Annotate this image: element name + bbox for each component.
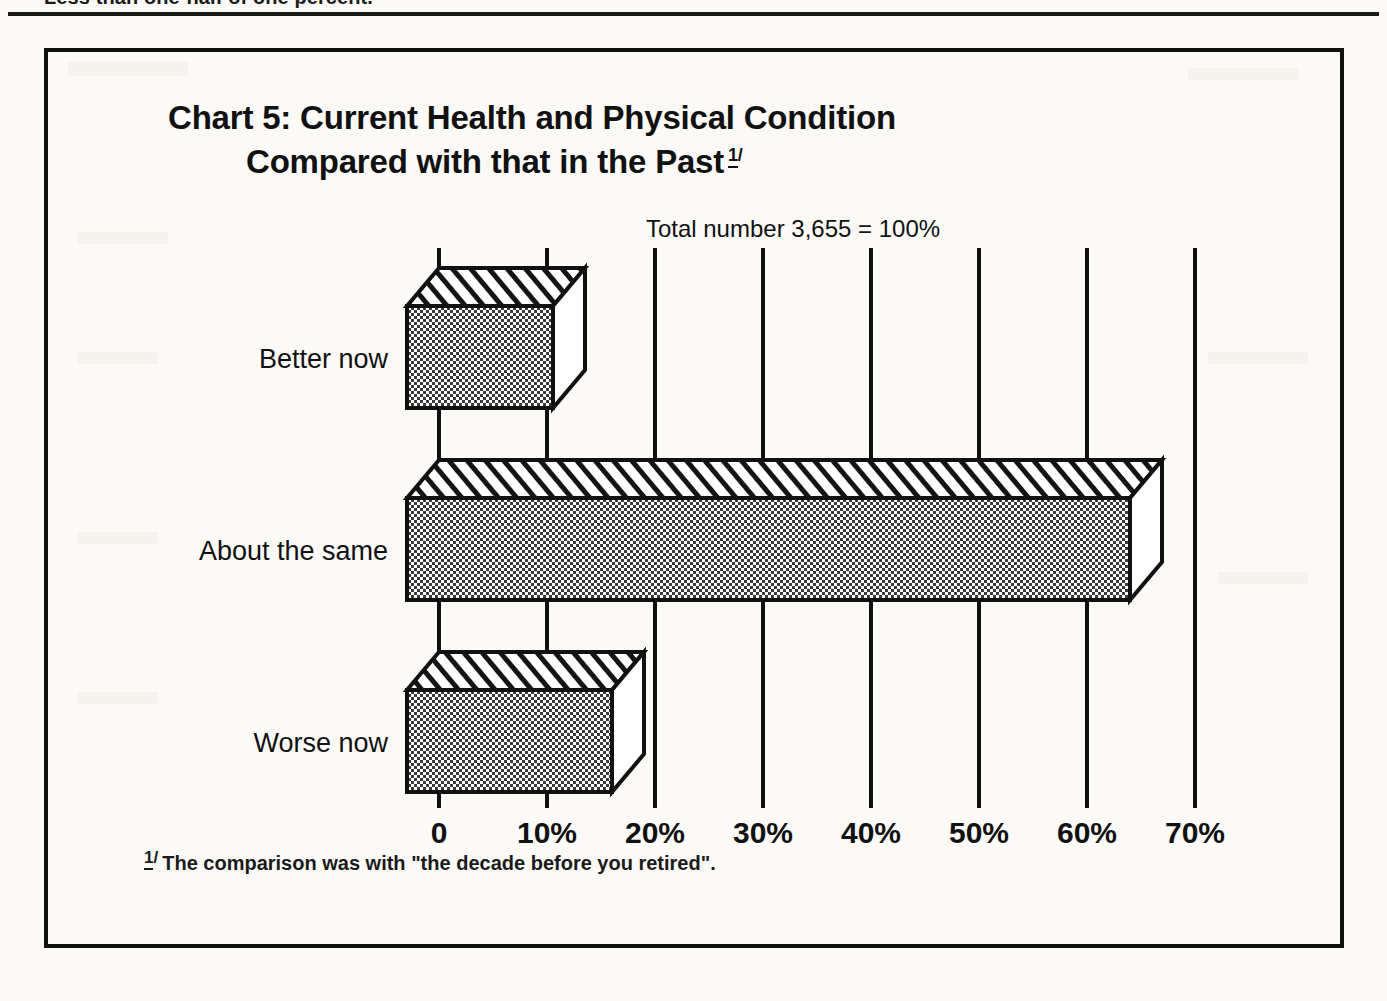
xtick-label-30: 30% bbox=[733, 816, 793, 850]
bar-worse-now bbox=[407, 652, 644, 792]
cut-off-text: Less than one-half of one percent. bbox=[44, 0, 373, 9]
footnote-marker: 1/ bbox=[144, 848, 158, 867]
chart-svg bbox=[48, 52, 1348, 952]
chart-figure-frame: Chart 5: Current Health and Physical Con… bbox=[44, 48, 1344, 948]
bar-front-face bbox=[407, 690, 612, 792]
category-label-worse-now: Worse now bbox=[68, 728, 388, 759]
chart-footnote: 1/The comparison was with "the decade be… bbox=[144, 852, 716, 875]
bar-better-now bbox=[407, 268, 585, 408]
bar-about-the-same bbox=[407, 460, 1162, 600]
xtick-label-50: 50% bbox=[949, 816, 1009, 850]
category-label-better-now: Better now bbox=[68, 344, 388, 375]
horizontal-rule bbox=[8, 12, 1379, 16]
xtick-label-20: 20% bbox=[625, 816, 685, 850]
footnote-text: The comparison was with "the decade befo… bbox=[162, 852, 716, 874]
bar-front-face bbox=[407, 306, 553, 408]
xtick-label-60: 60% bbox=[1057, 816, 1117, 850]
bar-front-face bbox=[407, 498, 1130, 600]
bar-top-face bbox=[407, 460, 1162, 498]
plot-area bbox=[48, 52, 1348, 952]
xtick-label-0: 0 bbox=[431, 816, 448, 850]
xtick-label-40: 40% bbox=[841, 816, 901, 850]
xtick-label-10: 10% bbox=[517, 816, 577, 850]
xtick-label-70: 70% bbox=[1165, 816, 1225, 850]
category-label-about-the-same: About the same bbox=[68, 536, 388, 567]
page-top-fragment: Less than one-half of one percent. bbox=[0, 0, 1387, 34]
bar-top-face bbox=[407, 652, 644, 690]
footnote-slash: / bbox=[153, 848, 158, 867]
